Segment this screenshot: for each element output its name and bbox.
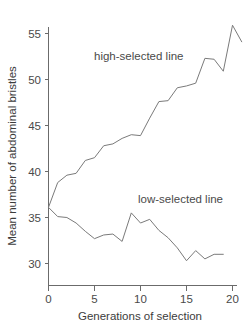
x-tick-marks (49, 286, 233, 291)
line-chart-canvas: 55 50 45 40 35 30 0 5 10 15 20 Generatio… (0, 0, 245, 326)
y-tick-labels: 55 50 45 40 35 30 (28, 28, 41, 270)
y-axis-title: Mean number of abdominal bristles (6, 66, 18, 246)
high-selected-line-label: high-selected line (94, 50, 184, 62)
y-tick-label-50: 50 (28, 74, 41, 86)
x-tick-label-20: 20 (226, 293, 239, 305)
x-tick-label-15: 15 (180, 293, 193, 305)
x-tick-label-10: 10 (134, 293, 147, 305)
y-tick-label-55: 55 (28, 28, 41, 40)
low-selected-line-label: low-selected line (138, 193, 223, 205)
x-axis-title: Generations of selection (78, 310, 202, 322)
y-tick-label-40: 40 (28, 166, 41, 178)
x-tick-label-0: 0 (45, 293, 51, 305)
y-tick-label-35: 35 (28, 212, 41, 224)
y-tick-label-30: 30 (28, 258, 41, 270)
x-tick-label-5: 5 (91, 293, 97, 305)
y-tick-marks (45, 34, 49, 264)
y-tick-label-45: 45 (28, 120, 41, 132)
low-selected-line-path (49, 207, 224, 260)
chart-figure: 55 50 45 40 35 30 0 5 10 15 20 Generatio… (0, 0, 245, 326)
x-tick-labels: 0 5 10 15 20 (45, 293, 239, 305)
